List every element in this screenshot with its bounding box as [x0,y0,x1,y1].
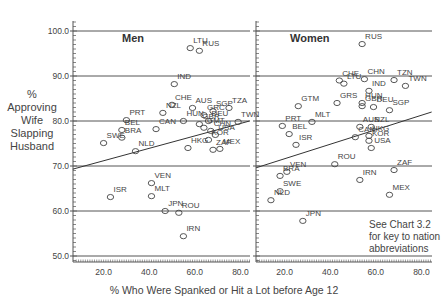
y-tick-label: 100.0 [48,26,70,36]
data-point-marker [334,100,340,105]
data-point-label: IRN [363,168,377,177]
data-point-marker [196,48,202,53]
data-point-label: BRA [125,126,142,135]
data-point-marker [366,138,372,143]
y-label-line: Approving [2,101,62,114]
data-point-label: TZA [232,96,248,105]
data-point-label: MEX [223,137,241,146]
data-point-label: IND [177,72,191,81]
data-point-label: SWE [283,179,301,188]
x-axis-label: % Who Were Spanked or Hit a Lot before A… [0,284,448,296]
data-point-marker [391,167,397,172]
x-tick-label: 40.0 [322,267,339,277]
data-point-marker [295,104,301,109]
data-point-marker [370,104,376,109]
x-tick-label: 40.0 [141,267,158,277]
data-point-label: SWE [107,131,125,140]
data-point-label: DEU [377,95,394,104]
y-axis-label: % Approving Wife Slapping Husband [2,88,62,153]
data-point-label: GTM [301,94,319,103]
data-point-marker [217,146,223,151]
y-tick-label: 60.0 [52,206,69,216]
data-point-label: JPN [306,209,321,218]
data-point-marker [268,198,274,203]
data-point-label: KOR [211,128,229,137]
data-point-label: USA [374,136,391,145]
data-point-label: TWN [408,74,426,83]
data-point-label: TWN [241,110,259,119]
data-point-marker [341,81,347,86]
data-point-marker [210,147,216,152]
data-point-marker [361,77,367,82]
data-point-marker [171,82,177,87]
data-point-marker [148,194,154,199]
data-point-marker [279,123,285,128]
data-point-label: CAN [159,117,176,126]
data-point-label: IND [372,79,386,88]
data-point-marker [386,192,392,197]
note-line: abbreviations [369,243,440,255]
data-point-label: MLT [315,110,331,119]
y-tick-label: 70.0 [52,161,69,171]
scatter-chart: 20.040.060.080.050.060.070.080.090.0100.… [0,0,448,306]
data-point-label: BEL [292,122,308,131]
data-point-label: IRN [186,224,200,233]
data-point-label: HKG [191,136,208,145]
panel-title: Women [290,32,330,44]
data-point-label: MLT [154,184,170,193]
data-point-label: GRS [340,91,357,100]
data-point-label: ROU [338,152,356,161]
data-point-label: NLD [274,188,290,197]
data-point-marker [386,108,392,113]
data-point-label: NZL [166,101,182,110]
data-point-marker [309,119,315,124]
chart-note: See Chart 3.2 for key to nation abbrevia… [369,219,440,255]
data-point-label: RUS [202,39,219,48]
y-tick-label: 90.0 [52,71,69,81]
y-label-line: Wife [2,114,62,127]
x-tick-label: 80.0 [232,267,249,277]
data-point-marker [391,77,397,82]
note-line: for key to nation [369,231,440,243]
data-point-label: MEX [392,183,410,192]
panel-title: Men [122,32,144,44]
data-point-label: LTU [347,72,362,81]
data-point-marker [359,104,365,109]
y-label-line: Husband [2,140,62,153]
data-point-label: NLD [139,139,155,148]
y-label-line: Slapping [2,127,62,140]
data-point-label: ROU [182,201,200,210]
data-point-marker [336,78,342,83]
data-point-marker [153,127,159,132]
x-tick-label: 80.0 [413,267,430,277]
data-point-marker [160,110,166,115]
data-point-marker [300,218,306,223]
data-point-marker [185,145,191,150]
y-label-line: % [2,88,62,101]
y-tick-label: 50.0 [52,251,69,261]
data-point-label: ISR [299,133,313,142]
data-point-marker [286,131,292,136]
data-point-label: ISR [113,185,127,194]
data-point-marker [100,140,106,145]
data-point-label: ZAF [397,158,412,167]
data-point-marker [293,142,299,147]
x-tick-label: 20.0 [276,267,293,277]
data-point-label: VEN [290,160,307,169]
x-tick-label: 60.0 [187,267,204,277]
x-tick-label: 20.0 [95,267,112,277]
data-point-label: VEN [154,171,171,180]
data-point-marker [277,173,283,178]
data-point-marker [359,41,365,46]
note-line: See Chart 3.2 [369,219,440,231]
data-point-marker [187,46,193,51]
data-point-label: SGP [392,98,409,107]
data-point-marker [402,83,408,88]
data-point-label: RUS [365,32,382,41]
data-point-marker [201,125,207,130]
data-point-label: PRT [129,108,145,117]
data-point-marker [107,194,113,199]
x-tick-label: 60.0 [368,267,385,277]
data-point-marker [357,177,363,182]
data-point-marker [180,234,186,239]
